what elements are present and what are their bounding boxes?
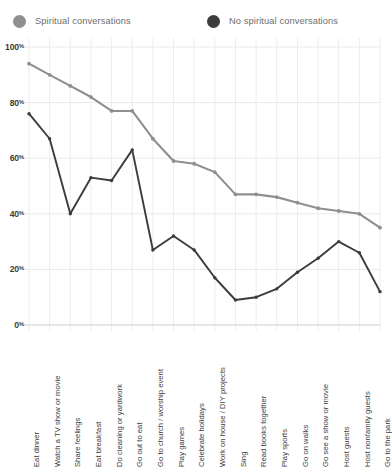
y-axis-tick-label: 0%: [0, 320, 24, 330]
x-axis-tick-label: Work on house / DIY projects: [218, 367, 227, 467]
data-point: [130, 109, 134, 113]
y-axis-tick-label: 40%: [0, 209, 24, 219]
x-axis-tick-label: Play games: [177, 427, 186, 467]
y-axis-tick-label: 80%: [0, 98, 24, 108]
y-axis-tick-label: 60%: [0, 153, 24, 163]
data-point: [151, 137, 155, 141]
data-point: [172, 159, 176, 163]
data-point: [110, 179, 113, 182]
x-axis-tick-label: Eat dinner: [32, 432, 41, 467]
y-axis-tick-label: 20%: [0, 264, 24, 274]
x-axis-tick-label: Read books together: [259, 396, 268, 467]
y-axis-tick-label: 100%: [0, 42, 24, 52]
data-point: [110, 109, 114, 113]
x-axis-tick-label: Go see a show or movie: [321, 384, 330, 467]
data-point: [254, 296, 257, 299]
x-axis-tick-label: Host nonfamily guests: [363, 391, 372, 467]
data-point: [69, 212, 72, 215]
data-point: [213, 170, 217, 174]
x-axis-tick-label: Go to the park: [383, 418, 392, 467]
data-point: [131, 148, 134, 151]
legend-entry-no-spiritual-conversations[interactable]: No spiritual conversations: [207, 13, 338, 29]
data-point: [337, 209, 341, 213]
data-point: [275, 195, 279, 199]
data-point: [68, 84, 72, 88]
data-point: [337, 240, 340, 243]
legend-dot-light-icon: [13, 15, 26, 28]
x-axis-tick-label: Play sports: [280, 429, 289, 467]
x-axis-tick-label: Share feelings: [73, 418, 82, 467]
x-axis-tick-label: Go to church / worship event: [156, 369, 165, 467]
chart-legend: Spiritual conversations No spiritual con…: [0, 0, 389, 38]
series-line-spiritual: [29, 64, 380, 228]
data-point: [192, 162, 196, 166]
data-point: [89, 95, 93, 99]
data-point: [234, 298, 237, 301]
data-point: [151, 248, 154, 251]
data-point: [358, 251, 361, 254]
data-point: [27, 62, 31, 66]
data-point: [316, 257, 319, 260]
data-point: [316, 206, 320, 210]
x-axis-tick-label: Go out to eat: [135, 422, 144, 467]
x-axis-tick-label: Watch a TV show or movie: [53, 375, 62, 467]
x-axis-tick-label: Go on walks: [301, 425, 310, 467]
data-point: [378, 290, 381, 293]
x-axis-tick-label: Do cleaning or yardwork: [115, 384, 124, 467]
x-axis-tick-label: Sing: [239, 452, 248, 467]
data-point: [27, 112, 30, 115]
data-point: [234, 192, 238, 196]
legend-label-no-spiritual-conversations: No spiritual conversations: [229, 16, 338, 26]
data-point: [254, 192, 258, 196]
plot-area: 100%80%60%40%20%0% Eat dinnerWatch a TV …: [0, 38, 389, 468]
legend-dot-dark-icon: [207, 15, 220, 28]
data-point: [89, 176, 92, 179]
legend-label-spiritual-conversations: Spiritual conversations: [35, 16, 131, 26]
x-axis-tick-label: Eat breakfast: [94, 422, 103, 467]
x-axis-tick-label: Celebrate holidays: [197, 403, 206, 467]
data-point: [378, 226, 382, 230]
data-point: [213, 276, 216, 279]
data-point: [48, 137, 51, 140]
x-axis-tick-label: Host guests: [342, 426, 351, 467]
data-point: [192, 248, 195, 251]
data-point: [172, 234, 175, 237]
data-point: [296, 201, 300, 205]
data-point: [275, 287, 278, 290]
legend-entry-spiritual-conversations[interactable]: Spiritual conversations: [13, 13, 131, 29]
data-point: [296, 270, 299, 273]
series-line-no-spiritual: [29, 114, 380, 300]
data-point: [357, 212, 361, 216]
data-point: [48, 73, 52, 77]
